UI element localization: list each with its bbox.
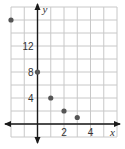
data-point xyxy=(35,69,40,74)
y-tick-label: 4 xyxy=(28,93,34,104)
arrow-down-icon xyxy=(35,137,41,144)
data-point xyxy=(48,95,53,100)
scatter-plot: 244812 x y xyxy=(0,0,125,149)
y-axis-label: y xyxy=(42,3,48,15)
data-point xyxy=(75,115,80,120)
data-point xyxy=(61,108,66,113)
data-point xyxy=(8,17,13,22)
x-tick-label: 4 xyxy=(88,127,94,138)
arrow-left-icon xyxy=(4,121,11,127)
x-tick-label: 2 xyxy=(61,127,67,138)
grid-lines xyxy=(11,7,117,137)
x-axis-label: x xyxy=(109,126,115,138)
y-tick-label: 8 xyxy=(28,67,34,78)
y-tick-label: 12 xyxy=(22,41,34,52)
